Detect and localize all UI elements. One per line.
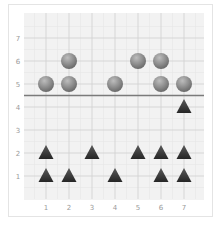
- circle-marker: [153, 76, 169, 92]
- x-tick-label: 7: [182, 204, 186, 212]
- x-tick-label: 1: [44, 204, 48, 212]
- y-tick-label: 2: [16, 150, 20, 158]
- x-tick-label: 6: [159, 204, 164, 212]
- x-tick-label: 5: [136, 204, 140, 212]
- y-axis-ticks: 1234567: [16, 35, 21, 181]
- y-tick-label: 6: [16, 58, 21, 66]
- circle-marker: [61, 53, 77, 69]
- scatter-chart: 1234567 1234567: [0, 0, 223, 226]
- circle-marker: [153, 53, 169, 69]
- x-axis-ticks: 1234567: [44, 204, 186, 212]
- x-tick-label: 4: [113, 204, 118, 212]
- x-tick-label: 2: [67, 204, 71, 212]
- y-tick-label: 5: [16, 81, 20, 89]
- circle-marker: [38, 76, 54, 92]
- y-tick-label: 3: [16, 127, 20, 135]
- circle-marker: [130, 53, 146, 69]
- y-tick-label: 4: [16, 104, 21, 112]
- circle-marker: [176, 76, 192, 92]
- circle-marker: [107, 76, 123, 92]
- y-tick-label: 1: [16, 173, 20, 181]
- y-tick-label: 7: [16, 35, 20, 43]
- x-tick-label: 3: [90, 204, 94, 212]
- circle-marker: [61, 76, 77, 92]
